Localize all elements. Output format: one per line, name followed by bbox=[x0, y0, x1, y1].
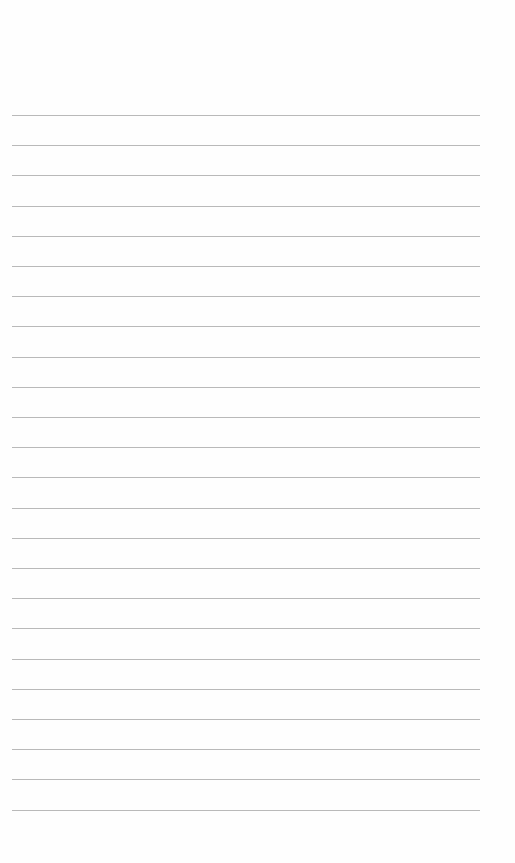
ruled-line bbox=[12, 628, 480, 629]
ruled-line bbox=[12, 206, 480, 207]
ruled-line bbox=[12, 779, 480, 780]
ruled-line bbox=[12, 387, 480, 388]
ruled-line bbox=[12, 568, 480, 569]
lined-page bbox=[0, 0, 515, 863]
ruled-line bbox=[12, 357, 480, 358]
ruled-line bbox=[12, 477, 480, 478]
ruled-line bbox=[12, 508, 480, 509]
ruled-line bbox=[12, 719, 480, 720]
ruled-line bbox=[12, 598, 480, 599]
ruled-line bbox=[12, 538, 480, 539]
ruled-line bbox=[12, 326, 480, 327]
ruled-line bbox=[12, 447, 480, 448]
ruled-line bbox=[12, 659, 480, 660]
ruled-line bbox=[12, 417, 480, 418]
ruled-line bbox=[12, 749, 480, 750]
ruled-line bbox=[12, 175, 480, 176]
ruled-line bbox=[12, 296, 480, 297]
ruled-line bbox=[12, 145, 480, 146]
ruled-line bbox=[12, 266, 480, 267]
ruled-line bbox=[12, 689, 480, 690]
ruled-line bbox=[12, 115, 480, 116]
ruled-line bbox=[12, 810, 480, 811]
ruled-line bbox=[12, 236, 480, 237]
